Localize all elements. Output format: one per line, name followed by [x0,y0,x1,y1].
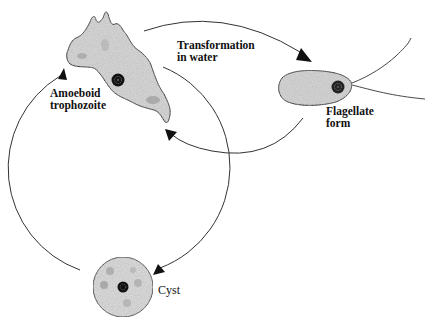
arrow-flagellate-to-amoeboid [165,118,303,153]
label-line: Cyst [158,284,180,296]
label-line: trophozoite [50,99,106,111]
label-amoeboid-trophozoite: Amoeboid trophozoite [50,87,106,111]
arrowhead-icon [165,129,177,141]
label-line: Flagellate [326,105,374,117]
nucleus-icon [332,81,345,94]
label-line: form [326,117,374,129]
arrowhead-icon [58,68,67,80]
label-line: in water [177,51,255,63]
label-transformation-in-water: Transformation in water [177,39,255,63]
label-line: Amoeboid [50,87,106,99]
label-line: Transformation [177,39,255,51]
label-cyst: Cyst [158,284,180,296]
arrowhead-icon [296,48,312,62]
flagellum-icon [352,38,411,83]
label-flagellate-form: Flagellate form [326,105,374,129]
arrowhead-icon [153,264,165,275]
life-cycle-diagram: Amoeboid trophozoite Transformation in w… [0,0,434,320]
flagellate-cell [279,38,425,105]
nucleus-icon [118,282,129,293]
cyst-cell [93,257,153,317]
flagellum-icon [352,85,425,99]
nucleus-icon [112,74,125,87]
